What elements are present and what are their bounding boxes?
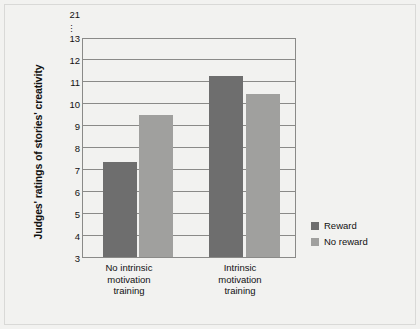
- bar-noreward-training[interactable]: [246, 94, 280, 257]
- gridline-12: [83, 81, 295, 82]
- legend-label-no-reward: No reward: [324, 236, 368, 247]
- y-tick-12: 12: [69, 55, 80, 66]
- y-tick-11: 11: [70, 77, 80, 88]
- y-tick-8: 8: [75, 143, 80, 154]
- legend-item-reward[interactable]: Reward: [311, 220, 368, 231]
- legend: Reward No reward: [311, 220, 368, 252]
- y-axis-title: Judges' ratings of stories' creativity: [32, 22, 44, 282]
- y-tick-6: 6: [75, 187, 80, 198]
- y-tick-10: 10: [69, 99, 80, 110]
- legend-swatch-icon-reward: [311, 222, 319, 230]
- y-axis-break-icon: ···: [70, 24, 73, 33]
- y-tick-9: 9: [75, 121, 80, 132]
- gridline-13: [83, 59, 295, 60]
- legend-swatch-icon-no-reward: [311, 238, 319, 246]
- y-tick-7: 7: [75, 165, 80, 176]
- y-axis-tick-labels: 21 ··· 13 12 11 10 9 8 7 6 5 4 3: [58, 38, 80, 258]
- x-tick-label-no-training: No intrinsic motivation training: [84, 262, 174, 297]
- y-tick-4: 4: [75, 231, 80, 242]
- bar-reward-training[interactable]: [209, 76, 243, 257]
- legend-label-reward: Reward: [324, 220, 357, 231]
- legend-item-no-reward[interactable]: No reward: [311, 236, 368, 247]
- gridline-4: [83, 257, 295, 258]
- x-tick-label-training: Intrinsic motivation training: [195, 262, 285, 297]
- y-tick-5: 5: [75, 209, 80, 220]
- bar-reward-no-training[interactable]: [103, 162, 137, 257]
- y-tick-3: 3: [75, 253, 80, 264]
- chart-figure: Judges' ratings of stories' creativity 2…: [0, 0, 420, 329]
- y-tick-13: 13: [69, 33, 80, 44]
- plot-area: [82, 38, 296, 258]
- y-tick-top: 21: [69, 9, 80, 20]
- bar-noreward-no-training[interactable]: [139, 115, 173, 257]
